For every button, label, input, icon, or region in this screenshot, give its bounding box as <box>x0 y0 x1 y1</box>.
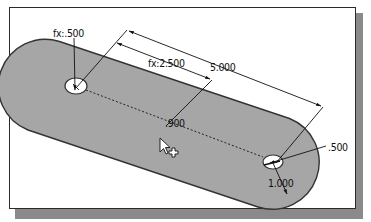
dim-label-end-radius[interactable]: 1.000 <box>268 177 294 189</box>
dim-label-center-offset[interactable]: fx:2.500 <box>148 57 185 69</box>
dim-label-right-hole[interactable]: .500 <box>328 141 348 153</box>
dim-label-left-hole[interactable]: fx:.500 <box>53 27 84 39</box>
left-hole[interactable] <box>65 78 87 94</box>
dim-label-slot-width[interactable]: .900 <box>165 117 185 129</box>
dim-label-center-distance[interactable]: 5.000 <box>210 61 236 73</box>
cad-sketch: fx:.500 fx:2.500 5.000 .900 .500 1.000 <box>0 0 371 222</box>
